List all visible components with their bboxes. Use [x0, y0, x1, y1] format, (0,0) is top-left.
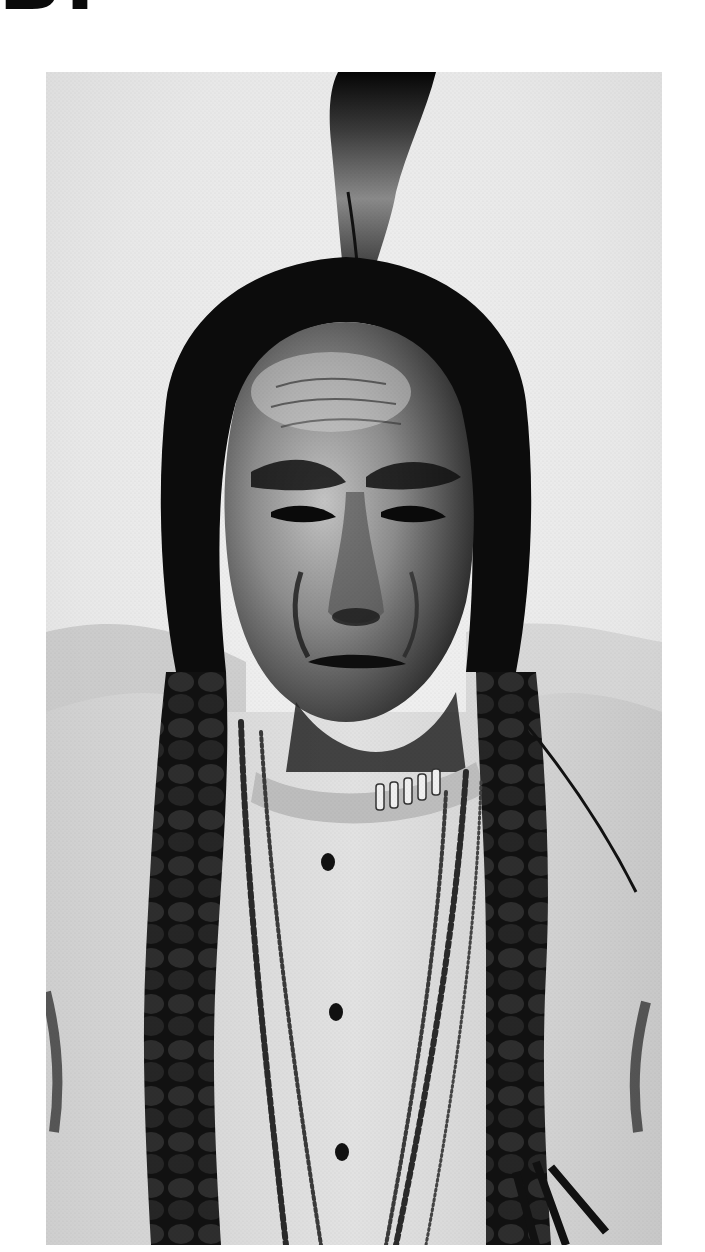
portrait-photograph: [46, 72, 662, 1245]
portrait-illustration: [46, 72, 662, 1245]
page-heading-glyph: B.: [0, 0, 98, 22]
